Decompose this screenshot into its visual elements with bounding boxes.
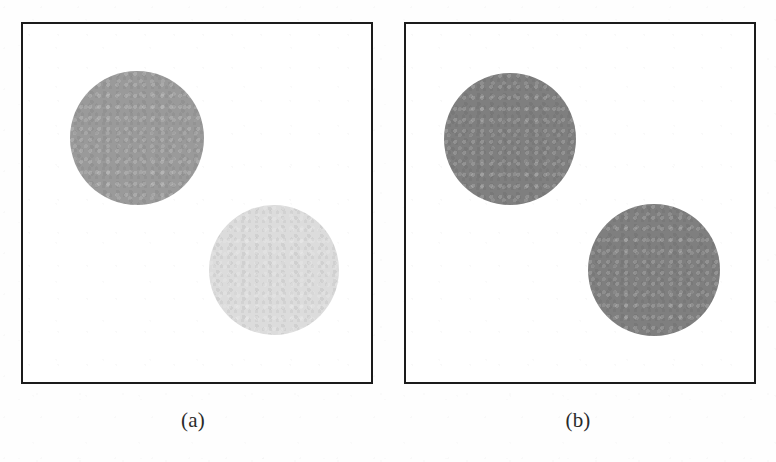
panel-a-upper-left-disk <box>70 71 204 205</box>
panel-a-lower-right-disk <box>209 205 339 335</box>
panel-a-caption: (a) <box>113 406 273 434</box>
panel-b-upper-left-disk <box>444 73 576 205</box>
figure-canvas: (a) (b) <box>0 0 776 462</box>
panel-b-caption: (b) <box>498 406 658 434</box>
panel-b-lower-right-disk <box>588 204 720 336</box>
panel-a <box>21 22 373 384</box>
panel-b <box>404 22 756 384</box>
